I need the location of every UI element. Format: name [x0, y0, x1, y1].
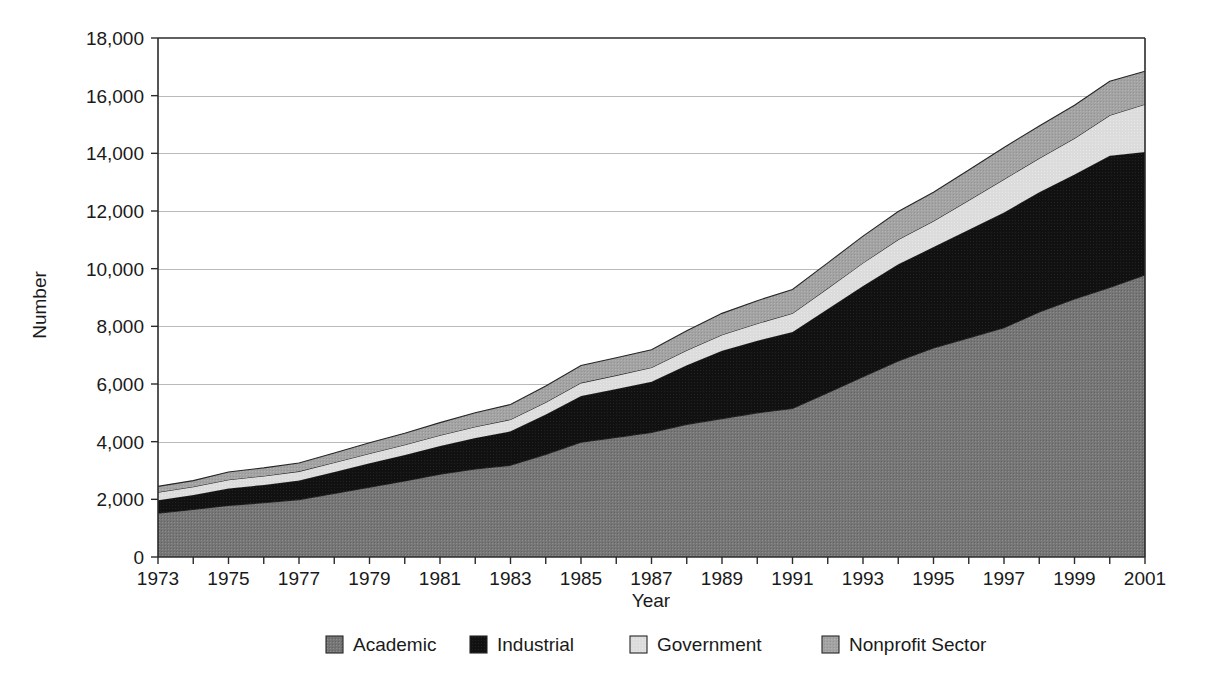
y-tick-label: 16,000	[86, 86, 144, 107]
y-tick-label: 6,000	[96, 374, 144, 395]
x-tick-label: 1987	[630, 568, 672, 589]
legend: AcademicIndustrialGovernmentNonprofit Se…	[326, 634, 987, 655]
legend-item-nonprofit-sector[interactable]: Nonprofit Sector	[822, 634, 987, 655]
legend-swatch-nonprofit-sector	[822, 636, 839, 653]
y-tick-label: 8,000	[96, 316, 144, 337]
x-tick-label: 1985	[560, 568, 602, 589]
x-tick-label: 1993	[842, 568, 884, 589]
y-tick-label: 0	[133, 547, 144, 568]
legend-label: Nonprofit Sector	[849, 634, 987, 655]
legend-label: Academic	[353, 634, 436, 655]
y-axis-ticks-group: 18,00016,00014,00012,00010,0008,0006,000…	[86, 28, 158, 568]
y-tick-label: 12,000	[86, 201, 144, 222]
chart-canvas: 18,00016,00014,00012,00010,0008,0006,000…	[0, 0, 1213, 696]
legend-label: Industrial	[497, 634, 574, 655]
legend-swatch-government	[630, 636, 647, 653]
x-tick-label: 1981	[419, 568, 461, 589]
x-tick-label: 1999	[1053, 568, 1095, 589]
y-axis-title: Number	[29, 271, 50, 339]
legend-swatch-industrial	[470, 636, 487, 653]
area-bands-group	[158, 71, 1145, 557]
legend-item-academic[interactable]: Academic	[326, 634, 436, 655]
x-axis-ticks-group: 1973197519771979198119831985198719891991…	[137, 557, 1166, 589]
x-tick-label: 1983	[489, 568, 531, 589]
x-tick-label: 1989	[701, 568, 743, 589]
y-tick-label: 2,000	[96, 489, 144, 510]
y-tick-label: 14,000	[86, 143, 144, 164]
stacked-area-chart: 18,00016,00014,00012,00010,0008,0006,000…	[0, 0, 1213, 696]
x-tick-label: 1973	[137, 568, 179, 589]
x-tick-label: 1975	[207, 568, 249, 589]
legend-item-government[interactable]: Government	[630, 634, 762, 655]
x-tick-label: 1997	[983, 568, 1025, 589]
x-tick-label: 2001	[1124, 568, 1166, 589]
y-tick-label: 10,000	[86, 259, 144, 280]
x-tick-label: 1991	[771, 568, 813, 589]
x-tick-label: 1995	[912, 568, 954, 589]
x-tick-label: 1979	[348, 568, 390, 589]
y-tick-label: 18,000	[86, 28, 144, 49]
legend-label: Government	[657, 634, 762, 655]
legend-swatch-academic	[326, 636, 343, 653]
x-tick-label: 1977	[278, 568, 320, 589]
x-axis-title: Year	[632, 590, 671, 611]
legend-item-industrial[interactable]: Industrial	[470, 634, 574, 655]
y-tick-label: 4,000	[96, 432, 144, 453]
